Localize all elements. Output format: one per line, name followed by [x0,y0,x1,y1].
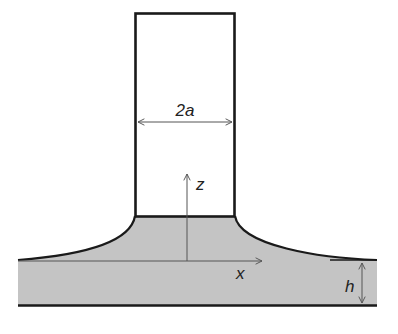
film-thickness-label: h [345,277,354,296]
width-label: 2a [175,101,195,120]
z-axis-label: z [195,175,205,194]
x-axis-label: x [235,264,245,283]
meniscus-diagram: 2a z x h [0,0,398,334]
